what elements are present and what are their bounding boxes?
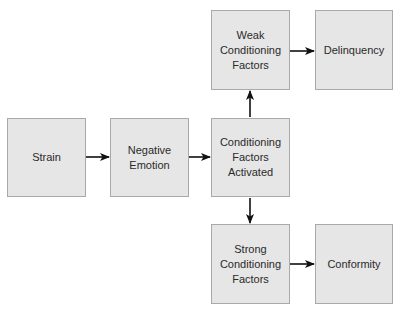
node-label: Negative Emotion [128, 143, 171, 173]
node-conditioning-factors-activated: Conditioning Factors Activated [211, 118, 290, 197]
node-label: Conformity [327, 257, 380, 272]
node-weak-conditioning-factors: Weak Conditioning Factors [211, 10, 290, 90]
node-negative-emotion: Negative Emotion [110, 118, 189, 197]
node-label: Strain [32, 150, 61, 165]
node-label: Conditioning Factors Activated [220, 135, 281, 180]
node-strong-conditioning-factors: Strong Conditioning Factors [211, 224, 290, 304]
node-label: Strong Conditioning Factors [220, 242, 281, 287]
node-conformity: Conformity [315, 224, 393, 304]
node-strain: Strain [7, 118, 86, 197]
node-label: Delinquency [324, 43, 385, 58]
node-delinquency: Delinquency [315, 10, 393, 90]
node-label: Weak Conditioning Factors [220, 28, 281, 73]
